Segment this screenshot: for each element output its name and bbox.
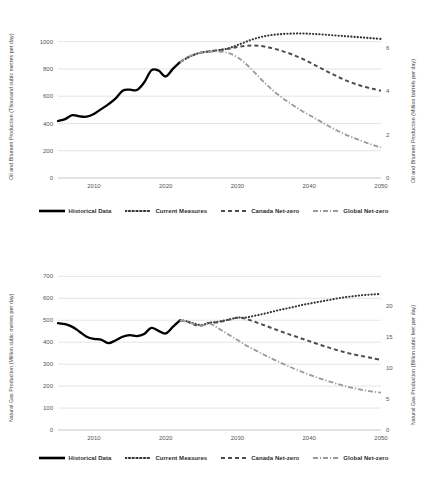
legend-swatch-canada-netzero: [221, 207, 247, 215]
x-tick-label: 2040: [303, 435, 317, 441]
natural-gas-legend: Historical Data Current Measures Canada …: [0, 454, 427, 462]
legend-item-current-measures[interactable]: Current Measures: [125, 207, 207, 215]
legend-label-historical: Historical Data: [69, 208, 112, 214]
legend-swatch-historical: [39, 454, 65, 462]
y-tick-label-left: 700: [43, 273, 54, 279]
oil-bitumen-right-axis-title: Oil and Bitumen Production (Million barr…: [411, 59, 416, 183]
y-tick-label-left: 600: [43, 93, 54, 99]
legend-label-global-netzero: Global Net-zero: [343, 208, 388, 214]
natural-gas-figure: 0100200300400500600700051015202010202020…: [0, 242, 427, 485]
legend-label-canada-netzero: Canada Net-zero: [251, 208, 299, 214]
y-tick-label-left: 0: [50, 175, 54, 181]
legend-item-canada-netzero[interactable]: Canada Net-zero: [221, 207, 299, 215]
oil-bitumen-svg: 0200400600800100002462010202020302040205…: [0, 0, 427, 200]
series-line-dashdot: [180, 51, 381, 147]
y-tick-label-left: 800: [43, 66, 54, 72]
y-tick-label-right: 4: [386, 88, 390, 94]
legend-swatch-global-netzero: [313, 454, 339, 462]
series-line-dotted: [180, 33, 381, 62]
y-tick-label-right: 6: [386, 45, 390, 51]
y-tick-label-left: 1000: [40, 39, 54, 45]
legend-label-historical: Historical Data: [69, 455, 112, 461]
y-tick-label-left: 400: [43, 339, 54, 345]
oil-bitumen-left-axis-title: Oil and Bitumen Production (Thousand cub…: [9, 33, 14, 180]
y-tick-label-left: 100: [43, 405, 54, 411]
legend-label-global-netzero: Global Net-zero: [343, 455, 388, 461]
y-tick-label-left: 200: [43, 383, 54, 389]
y-tick-label-left: 300: [43, 361, 54, 367]
legend-swatch-historical: [39, 207, 65, 215]
legend-item-global-netzero[interactable]: Global Net-zero: [313, 207, 388, 215]
y-tick-label-left: 200: [43, 148, 54, 154]
x-tick-label: 2030: [231, 183, 245, 189]
natural-gas-right-axis-title: Natural Gas Production (Billion cubic fe…: [411, 305, 416, 425]
legend-swatch-current-measures: [125, 207, 151, 215]
legend-label-current-measures: Current Measures: [155, 208, 207, 214]
x-tick-label: 2050: [374, 435, 388, 441]
x-tick-label: 2030: [231, 435, 245, 441]
y-tick-label-right: 10: [386, 365, 393, 371]
legend-label-canada-netzero: Canada Net-zero: [251, 455, 299, 461]
y-tick-label-right: 2: [386, 132, 390, 138]
oil-bitumen-figure: 0200400600800100002462010202020302040205…: [0, 0, 427, 242]
y-tick-label-right: 0: [386, 175, 390, 181]
y-tick-label-left: 400: [43, 121, 54, 127]
legend-swatch-global-netzero: [313, 207, 339, 215]
y-tick-label-right: 0: [386, 427, 390, 433]
series-line-solid: [58, 62, 180, 121]
x-tick-label: 2050: [374, 183, 388, 189]
y-tick-label-right: 20: [386, 303, 393, 309]
x-tick-label: 2010: [87, 435, 101, 441]
x-tick-label: 2020: [159, 183, 173, 189]
series-line-dashdot: [180, 320, 381, 392]
legend-item-canada-netzero[interactable]: Canada Net-zero: [221, 454, 299, 462]
legend-swatch-current-measures: [125, 454, 151, 462]
natural-gas-left-axis-title: Natural Gas Production (Million cubic me…: [9, 294, 14, 422]
legend-swatch-canada-netzero: [221, 454, 247, 462]
series-line-solid: [58, 320, 180, 343]
natural-gas-svg: 0100200300400500600700051015202010202020…: [0, 242, 427, 447]
y-tick-label-left: 0: [50, 427, 54, 433]
x-tick-label: 2040: [303, 183, 317, 189]
y-tick-label-right: 5: [386, 396, 390, 402]
oil-bitumen-legend: Historical Data Current Measures Canada …: [0, 207, 427, 215]
x-tick-label: 2020: [159, 435, 173, 441]
legend-item-current-measures[interactable]: Current Measures: [125, 454, 207, 462]
y-tick-label-left: 600: [43, 295, 54, 301]
legend-label-current-measures: Current Measures: [155, 455, 207, 461]
y-tick-label-right: 15: [386, 334, 393, 340]
natural-gas-plot: 0100200300400500600700051015202010202020…: [0, 242, 427, 447]
y-tick-label-left: 500: [43, 317, 54, 323]
legend-item-historical[interactable]: Historical Data: [39, 454, 112, 462]
legend-item-global-netzero[interactable]: Global Net-zero: [313, 454, 388, 462]
oil-bitumen-plot: 0200400600800100002462010202020302040205…: [0, 0, 427, 200]
x-tick-label: 2010: [87, 183, 101, 189]
legend-item-historical[interactable]: Historical Data: [39, 207, 112, 215]
